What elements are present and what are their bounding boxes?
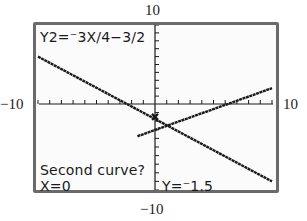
x-readout: X=0	[40, 179, 71, 193]
calculator-screen: Y2=⁻3X/4−3/2 Second curve? X=0 Y=⁻1.5	[33, 22, 279, 193]
equation-label: Y2=⁻3X/4−3/2	[40, 30, 145, 44]
ymax-label: 10	[145, 3, 160, 18]
xmax-label: 10	[283, 97, 298, 112]
ymin-label: −10	[140, 202, 163, 217]
y-readout: Y=⁻1.5	[162, 179, 213, 193]
prompt-text: Second curve?	[40, 163, 145, 177]
xmin-label: −10	[0, 97, 23, 112]
